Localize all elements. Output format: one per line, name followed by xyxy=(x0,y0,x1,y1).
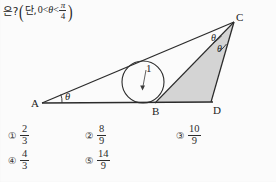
choice-5-denominator: 9 xyxy=(100,161,107,172)
choice-3-numerator: 10 xyxy=(188,124,201,135)
upper-bound-numerator: π xyxy=(60,1,67,11)
choice-value-4: 4 3 xyxy=(20,149,29,172)
choice-marker-2: ② xyxy=(85,130,94,141)
choice-marker-5: ⑤ xyxy=(85,155,94,166)
choice-4-denominator: 3 xyxy=(21,161,28,172)
choice-marker-1: ① xyxy=(8,130,17,141)
choice-marker-4: ④ xyxy=(8,155,17,166)
radius-arrowhead xyxy=(140,86,145,91)
geometry-figure: A B C D θ θ θ 1 xyxy=(0,10,276,118)
inscribed-circle xyxy=(122,61,164,103)
answer-choices: ① 2 3 ② 8 9 ③ 10 9 ④ xyxy=(0,122,276,182)
geometry-svg: A B C D θ θ θ 1 xyxy=(0,10,276,118)
choice-4[interactable]: ④ 4 3 xyxy=(8,149,30,172)
angle-label-c-lower: θ xyxy=(217,43,222,54)
vertex-label-c: C xyxy=(236,11,243,23)
choice-5-numerator: 14 xyxy=(97,149,110,160)
choice-value-5: 14 9 xyxy=(97,149,110,172)
choice-2[interactable]: ② 8 9 xyxy=(85,124,107,147)
choice-2-numerator: 8 xyxy=(98,124,105,135)
choice-3-denominator: 9 xyxy=(191,136,198,147)
radius-label: 1 xyxy=(146,62,152,74)
exam-question-page: 은? ( 단, 0<θ<π4 ) xyxy=(0,0,276,182)
choice-value-3: 10 9 xyxy=(188,124,201,147)
choice-3[interactable]: ③ 10 9 xyxy=(176,124,201,147)
angle-label-c-upper: θ xyxy=(211,32,216,43)
angle-arc-a xyxy=(61,95,62,103)
choice-1[interactable]: ① 2 3 xyxy=(8,124,30,147)
vertex-label-d: D xyxy=(213,104,221,116)
segment-ad xyxy=(42,102,213,103)
choice-2-denominator: 9 xyxy=(98,136,105,147)
angle-label-a: θ xyxy=(65,91,70,102)
choice-5[interactable]: ⑤ 14 9 xyxy=(85,149,110,172)
vertex-label-b: B xyxy=(152,105,159,117)
vertex-label-a: A xyxy=(31,97,39,109)
choice-1-numerator: 2 xyxy=(21,124,28,135)
choice-value-2: 8 9 xyxy=(97,124,106,147)
choice-value-1: 2 3 xyxy=(20,124,29,147)
choice-1-denominator: 3 xyxy=(21,136,28,147)
choice-4-numerator: 4 xyxy=(21,149,28,160)
choice-marker-3: ③ xyxy=(176,130,185,141)
